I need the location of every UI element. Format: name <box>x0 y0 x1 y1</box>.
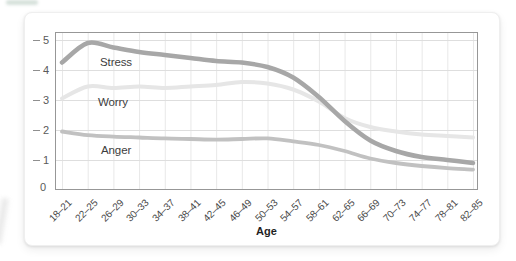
screen-artifact-top-left <box>6 0 38 5</box>
screen: Age 01234518–2122–2526–2930–3334–3738–41… <box>0 0 516 261</box>
screen-artifact-left-edge <box>0 198 9 245</box>
chart-card <box>24 12 500 246</box>
